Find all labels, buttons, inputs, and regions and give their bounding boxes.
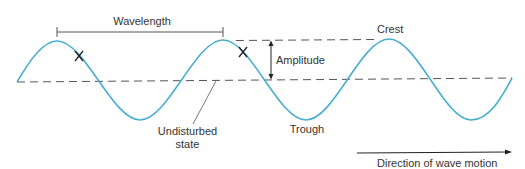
amplitude-arrow [269, 41, 274, 80]
wavelength-bracket [57, 27, 223, 37]
crest-level-line [236, 40, 376, 41]
amplitude-label: Amplitude [276, 54, 325, 66]
direction-arrow [357, 150, 512, 155]
marker-x-2 [239, 47, 247, 57]
trough-label: Trough [287, 123, 327, 135]
crest-label: Crest [377, 23, 403, 35]
wave-curve [17, 39, 512, 120]
undisturbed-label-line2: state [155, 138, 220, 150]
wave-diagram: Wavelength Crest Amplitude Trough Undist… [0, 0, 525, 169]
wave-diagram-svg [0, 0, 525, 169]
undisturbed-label-line1: Undisturbed [155, 125, 220, 137]
undisturbed-leader-line [193, 81, 216, 124]
marker-x-1 [75, 51, 83, 61]
direction-label: Direction of wave motion [377, 157, 497, 169]
wavelength-label: Wavelength [112, 15, 172, 27]
